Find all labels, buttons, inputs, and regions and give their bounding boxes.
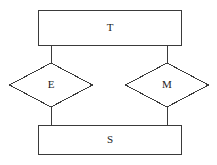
entity-node-t[interactable]: T xyxy=(39,11,182,46)
relationship-m-label: M xyxy=(162,78,172,90)
relationship-node-m[interactable]: M xyxy=(126,63,209,107)
relationship-node-e[interactable]: E xyxy=(10,63,93,107)
relationship-e-label: E xyxy=(48,78,55,90)
entity-s-label: S xyxy=(107,133,113,145)
entity-t-label: T xyxy=(107,21,114,33)
er-diagram-canvas: T S E M xyxy=(0,0,217,165)
entity-node-s[interactable]: S xyxy=(39,126,182,155)
diagram-svg-root: T S E M xyxy=(0,0,217,165)
